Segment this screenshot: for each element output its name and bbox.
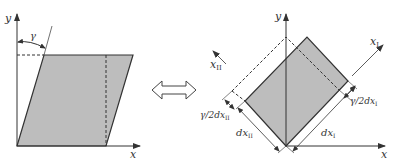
shear-diagram: γ y x y x bbox=[0, 0, 396, 163]
gamma-dx1-label: γ/2dxI bbox=[350, 96, 378, 107]
equivalence-double-arrow-icon bbox=[152, 81, 196, 99]
right-y-label: y bbox=[274, 10, 282, 23]
ext-line bbox=[222, 91, 232, 100]
ext-line bbox=[236, 101, 245, 109]
x2-label: xII bbox=[210, 58, 222, 72]
dim-gamma-dx2 bbox=[225, 100, 234, 109]
x1-axis-arrow bbox=[352, 45, 383, 76]
dx2-label: dxII bbox=[236, 127, 253, 139]
sheared-parallelogram bbox=[17, 55, 133, 146]
shear-line bbox=[44, 26, 52, 55]
dx1-label: dxI bbox=[321, 127, 336, 139]
right-x-label: x bbox=[381, 148, 388, 161]
x1-label: xI bbox=[370, 35, 379, 49]
left-y-label: y bbox=[4, 12, 12, 25]
gamma-label: γ bbox=[30, 30, 36, 41]
dashed-edge-left bbox=[232, 91, 245, 101]
left-panel: γ y x bbox=[4, 12, 140, 161]
gamma-arc bbox=[18, 42, 45, 48]
ext-line bbox=[286, 146, 294, 153]
gamma-dx2-label: γ/2dxII bbox=[200, 110, 230, 121]
left-x-label: x bbox=[130, 148, 137, 161]
ext-line bbox=[348, 81, 357, 89]
right-panel: y x xI xII γ/2dxI γ/2dxII dxI dxII bbox=[200, 10, 388, 161]
ext-line bbox=[278, 146, 286, 153]
